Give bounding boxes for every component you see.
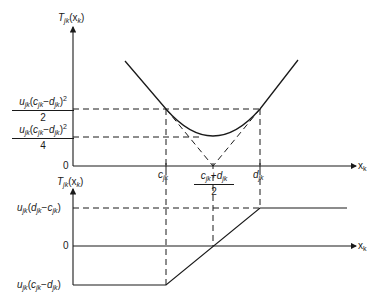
y-tick-half: ujk(cjk−djk)2 2 bbox=[12, 95, 74, 123]
top-y-axis-label: Tjk(xk) bbox=[58, 13, 84, 24]
top-zero-label: 0 bbox=[63, 161, 69, 171]
diagram-canvas bbox=[0, 0, 381, 306]
top-curve bbox=[125, 60, 298, 136]
y-tick-lower-plateau: ujk(cjk−djk) bbox=[17, 280, 61, 291]
y-tick-upper-plateau: ujk(djk−cjk) bbox=[17, 203, 61, 214]
bottom-x-axis-label: xk bbox=[358, 241, 367, 252]
top-x-axis-label: xk bbox=[358, 161, 367, 172]
x-tick-d: djk bbox=[253, 170, 264, 181]
y-tick-quarter: ujk(cjk−djk)2 4 bbox=[12, 123, 74, 151]
x-tick-midpoint: cjk+djk 2 bbox=[194, 170, 234, 197]
x-tick-c: cjk bbox=[158, 170, 168, 181]
tangent-right bbox=[213, 109, 260, 166]
bottom-zero-label: 0 bbox=[63, 241, 69, 251]
bottom-y-axis-label: Tjk(xk) bbox=[57, 177, 83, 188]
